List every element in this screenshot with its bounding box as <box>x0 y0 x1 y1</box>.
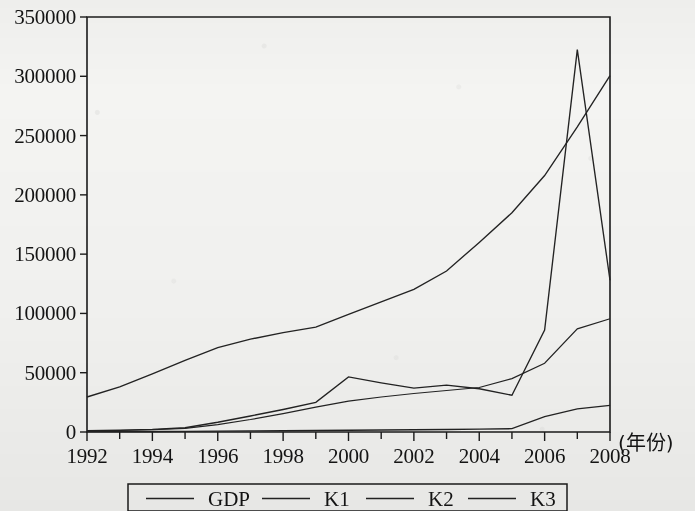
x-tick-label: 2002 <box>393 444 434 468</box>
y-tick-label: 0 <box>66 420 76 444</box>
series-line-gdp <box>87 76 610 397</box>
chart-legend: GDPK1K2K3 <box>128 484 567 511</box>
legend-label-k3: K3 <box>530 487 556 511</box>
y-tick-label: 100000 <box>14 301 76 325</box>
x-axis: 199219941996199820002002200420062008 <box>66 432 630 468</box>
y-tick-label: 50000 <box>24 361 76 385</box>
x-tick-label: 1998 <box>263 444 304 468</box>
line-chart: 0500001000001500002000002500003000003500… <box>0 0 695 511</box>
x-tick-label: 1996 <box>197 444 238 468</box>
series-line-k2 <box>87 319 610 431</box>
y-tick-label: 350000 <box>14 5 76 29</box>
y-tick-label: 250000 <box>14 124 76 148</box>
series-line-k1 <box>87 50 610 431</box>
x-tick-label: 1994 <box>132 444 174 468</box>
y-tick-label: 150000 <box>14 242 76 266</box>
x-tick-label: 2006 <box>524 444 565 468</box>
x-axis-caption: (年份) <box>618 431 674 455</box>
series-line-k3 <box>87 405 610 431</box>
legend-label-k1: K1 <box>324 487 350 511</box>
y-tick-label: 300000 <box>14 64 76 88</box>
legend-label-k2: K2 <box>428 487 454 511</box>
legend-label-gdp: GDP <box>208 487 250 511</box>
y-axis: 0500001000001500002000002500003000003500… <box>14 5 87 444</box>
x-tick-label: 2000 <box>328 444 369 468</box>
y-tick-label: 200000 <box>14 183 76 207</box>
x-tick-label: 1992 <box>66 444 107 468</box>
series-container <box>87 50 610 432</box>
x-tick-label: 2004 <box>459 444 501 468</box>
